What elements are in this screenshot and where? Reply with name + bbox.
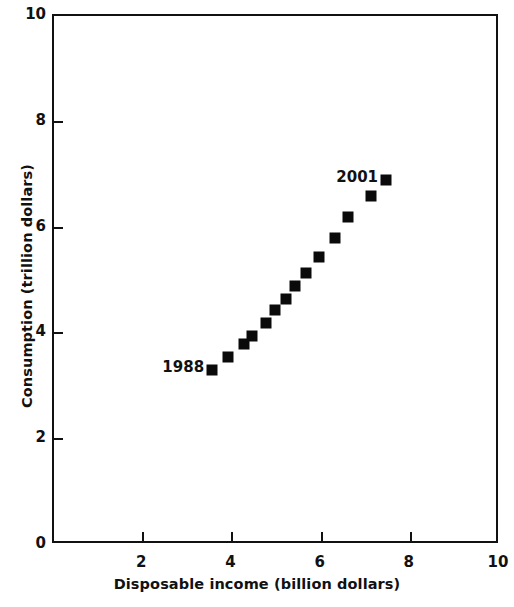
x-axis-title: Disposable income (billion dollars) xyxy=(0,576,514,592)
y-axis-tick xyxy=(54,227,63,229)
x-axis-tick-label: 6 xyxy=(300,555,340,570)
x-axis-tick-label: 8 xyxy=(389,555,429,570)
data-point-marker xyxy=(207,365,218,376)
x-axis-tick xyxy=(321,532,323,541)
x-axis-tick xyxy=(142,532,144,541)
data-point-marker xyxy=(280,294,291,305)
data-point-marker xyxy=(329,233,340,244)
y-axis-tick xyxy=(54,121,63,123)
y-axis-tick-label: 0 xyxy=(4,536,46,551)
data-point-marker xyxy=(343,212,354,223)
point-annotation-label: 2001 xyxy=(336,170,375,185)
x-axis-tick-label: 2 xyxy=(121,555,161,570)
plot-area xyxy=(52,14,498,543)
y-axis-tick xyxy=(54,332,63,334)
x-axis-tick-label: 4 xyxy=(210,555,250,570)
data-point-marker xyxy=(260,317,271,328)
scatter-chart-figure: 0246810 246810 19882001 Disposable incom… xyxy=(0,0,514,607)
data-point-marker xyxy=(300,267,311,278)
data-point-marker xyxy=(269,304,280,315)
y-axis-tick xyxy=(54,438,63,440)
data-point-marker xyxy=(365,190,376,201)
data-point-marker xyxy=(289,280,300,291)
x-axis-tick xyxy=(231,532,233,541)
y-axis-tick-label: 8 xyxy=(4,113,46,128)
y-axis-tick-label: 10 xyxy=(4,7,46,22)
x-axis-tick-label: 10 xyxy=(478,555,514,570)
x-axis-tick xyxy=(410,532,412,541)
point-annotation-label: 1988 xyxy=(162,360,201,375)
data-point-marker xyxy=(222,352,233,363)
y-axis-tick-label: 2 xyxy=(4,430,46,445)
y-axis-title: Consumption (trillion dollars) xyxy=(19,146,35,426)
data-point-marker xyxy=(381,174,392,185)
data-point-marker xyxy=(314,251,325,262)
data-point-marker xyxy=(247,331,258,342)
